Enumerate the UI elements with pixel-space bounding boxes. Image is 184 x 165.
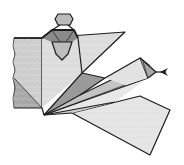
origami-diagram <box>0 0 184 165</box>
left-square-panel <box>13 38 42 108</box>
